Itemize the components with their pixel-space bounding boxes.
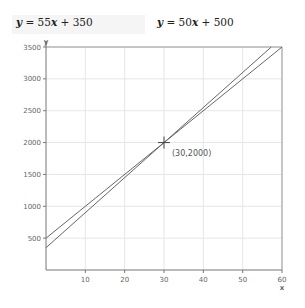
intersection-label: (30,2000) bbox=[172, 149, 211, 158]
y-tick-label: 1000 bbox=[23, 203, 41, 211]
y-tick-label: 500 bbox=[28, 235, 41, 243]
x-tick-label: 50 bbox=[238, 276, 247, 284]
y-tick-label: 3000 bbox=[23, 75, 41, 83]
x-tick-label: 10 bbox=[81, 276, 90, 284]
x-tick-label: 40 bbox=[199, 276, 208, 284]
x-tick-label: 30 bbox=[160, 276, 169, 284]
x-axis-label: x bbox=[280, 284, 285, 292]
x-tick-label: 20 bbox=[120, 276, 129, 284]
line-chart: 102030405060500100015002000250030003500x… bbox=[0, 0, 305, 308]
y-tick-label: 2000 bbox=[23, 139, 41, 147]
x-tick-label: 60 bbox=[278, 276, 287, 284]
y-tick-label: 2500 bbox=[23, 107, 41, 115]
y-tick-label: 3500 bbox=[23, 44, 41, 52]
y-tick-label: 1500 bbox=[23, 171, 41, 179]
y-axis-label: y bbox=[44, 38, 49, 46]
